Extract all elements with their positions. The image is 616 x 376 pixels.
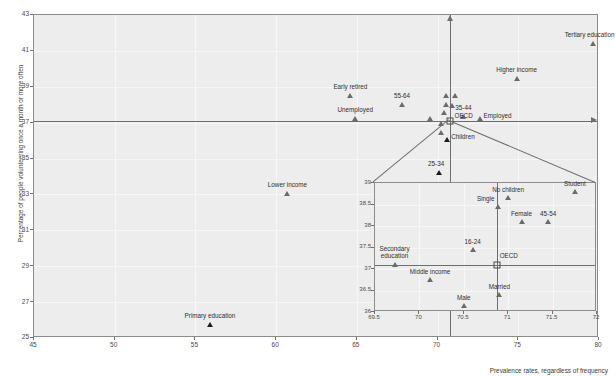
x-tick-label: 50: [105, 341, 123, 348]
y-tick-mark: [30, 158, 33, 159]
data-point-marker: [438, 130, 444, 135]
inset-data-point-marker: [545, 219, 551, 224]
gridline-horizontal: [34, 51, 597, 52]
data-point-marker: [477, 116, 483, 121]
inset-data-point-label: Middle income: [410, 268, 451, 276]
x-tick-mark: [114, 337, 115, 340]
inset-gridline-horizontal: [375, 205, 595, 206]
inset-scatter-plot: StudentNo childrenSingleFemale45-5416-24…: [374, 182, 596, 311]
gridline-vertical: [115, 15, 116, 336]
y-tick-mark: [30, 122, 33, 123]
inset-x-tick-mark: [374, 311, 375, 314]
gridline-horizontal: [34, 87, 597, 88]
x-tick-mark: [517, 337, 518, 340]
data-point-marker: [347, 93, 353, 98]
inset-x-tick-label: 69.5: [363, 314, 385, 320]
inset-data-point-marker: [572, 189, 578, 194]
inset-y-tick-mark: [371, 225, 374, 226]
inset-gridline-horizontal: [375, 269, 595, 270]
inset-data-point-label: 16-24: [465, 238, 481, 246]
data-point-marker: [590, 41, 596, 46]
inset-y-tick-label: 39: [348, 179, 371, 185]
x-tick-label: 55: [185, 341, 203, 348]
inset-x-tick-mark: [507, 311, 508, 314]
inset-y-tick-mark: [371, 268, 374, 269]
inset-x-tick-mark: [596, 311, 597, 314]
chart-root: Tertiary educationHigher incomeEarly ret…: [0, 0, 616, 376]
y-tick-label: 25: [0, 333, 29, 340]
data-point-label: 55-64: [394, 92, 410, 100]
x-tick-mark: [356, 337, 357, 340]
data-point-label: Early retired: [333, 83, 367, 91]
inset-data-point-marker: [495, 204, 501, 209]
x-tick-label: 45: [24, 341, 42, 348]
y-tick-mark: [30, 265, 33, 266]
y-tick-label: 37: [0, 118, 29, 125]
inset-data-point-marker: [461, 303, 467, 308]
inset-gridline-horizontal: [375, 226, 595, 227]
x-tick-label: 80: [589, 341, 607, 348]
data-point-marker: [443, 102, 449, 107]
inset-y-tick-label: 37: [348, 265, 371, 271]
data-point-marker: [399, 102, 405, 107]
x-axis-title: Prevalence rates, regardless of frequenc…: [490, 367, 608, 374]
inset-y-tick-label: 37.5: [348, 243, 371, 249]
inset-x-tick-label: 70.5: [452, 314, 474, 320]
data-point-marker: [449, 103, 455, 108]
x-tick-mark: [33, 337, 34, 340]
inset-y-tick-mark: [371, 204, 374, 205]
arrow-head-right: [591, 117, 597, 123]
data-point-label: Children: [451, 133, 474, 141]
y-tick-label: 43: [0, 10, 29, 17]
data-point-marker: [427, 116, 433, 121]
inset-gridline-horizontal: [375, 291, 595, 292]
data-point-label: Unemployed: [338, 106, 373, 114]
data-point-marker: [443, 93, 449, 98]
data-point-label: Employed: [484, 112, 512, 120]
inset-data-point-label: Student: [564, 180, 586, 188]
data-point-marker: [514, 76, 520, 81]
x-tick-mark: [194, 337, 195, 340]
inset-oecd-vertical-line: [497, 183, 498, 310]
data-point-marker: [444, 137, 450, 142]
data-point-marker: [452, 93, 458, 98]
inset-data-point-label: Married: [489, 283, 510, 291]
y-tick-label: 31: [0, 226, 29, 233]
inset-y-tick-mark: [371, 247, 374, 248]
inset-x-tick-mark: [418, 311, 419, 314]
oecd-average-horizontal-line: [34, 121, 597, 122]
gridline-horizontal: [34, 159, 597, 160]
data-point-marker: [207, 322, 213, 327]
data-point-label: OECD: [454, 112, 472, 120]
inset-data-point-label: OECD: [500, 252, 518, 260]
y-tick-mark: [30, 14, 33, 15]
inset-data-point-marker: [496, 292, 502, 297]
inset-x-tick-label: 71.5: [541, 314, 563, 320]
inset-data-point-marker: [505, 195, 511, 200]
y-tick-mark: [30, 86, 33, 87]
gridline-vertical: [276, 15, 277, 336]
y-tick-mark: [30, 50, 33, 51]
data-point-marker: [352, 116, 358, 121]
inset-x-tick-label: 71: [496, 314, 518, 320]
x-tick-mark: [598, 337, 599, 340]
x-tick-label: 70: [428, 341, 446, 348]
y-tick-label: 35: [0, 154, 29, 161]
data-point-label: Higher income: [496, 66, 537, 74]
data-point-label: 25-34: [428, 160, 444, 168]
data-point-label: 35-44: [455, 104, 471, 112]
data-point-marker: [284, 191, 290, 196]
inset-data-point-label: Single: [477, 195, 495, 203]
inset-x-tick-mark: [552, 311, 553, 314]
x-tick-label: 60: [266, 341, 284, 348]
inset-y-tick-label: 38.5: [348, 200, 371, 206]
inset-y-tick-label: 36: [348, 308, 371, 314]
y-tick-label: 29: [0, 262, 29, 269]
inset-data-point-label: Female: [511, 210, 532, 218]
inset-data-point-marker: [470, 247, 476, 252]
x-tick-mark: [275, 337, 276, 340]
y-tick-mark: [30, 193, 33, 194]
x-tick-label: 65: [347, 341, 365, 348]
inset-y-tick-label: 38: [348, 222, 371, 228]
y-tick-label: 33: [0, 190, 29, 197]
